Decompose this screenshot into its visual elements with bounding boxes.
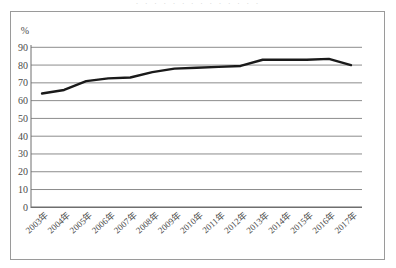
y-tick-label-0: 0 xyxy=(23,202,28,213)
x-tick-label-2006年: 2006年 xyxy=(89,209,116,235)
y-tick-label-20: 20 xyxy=(18,166,28,177)
y-tick-label-70: 70 xyxy=(18,77,28,88)
x-tick-label-2015年: 2015年 xyxy=(288,209,315,235)
x-tick-label-2009年: 2009年 xyxy=(155,209,182,235)
line-chart: 9080706050403020100 % 2003年2004年2005年200… xyxy=(0,0,396,268)
y-tick-label-80: 80 xyxy=(18,60,28,71)
y-axis-unit-label: % xyxy=(21,25,29,36)
y-tick-label-60: 60 xyxy=(18,95,28,106)
y-tick-label-30: 30 xyxy=(18,148,28,159)
x-tick-label-2008年: 2008年 xyxy=(133,209,160,235)
x-tick-label-2011年: 2011年 xyxy=(200,209,227,235)
x-tick-label-2013年: 2013年 xyxy=(244,209,271,235)
data-series-line xyxy=(42,59,351,94)
x-tick-label-2004年: 2004年 xyxy=(45,209,72,235)
y-tick-label-90: 90 xyxy=(18,42,28,53)
y-tick-label-10: 10 xyxy=(18,184,28,195)
y-tick-label-50: 50 xyxy=(18,113,28,124)
y-axis-tick-labels: 9080706050403020100 xyxy=(18,42,28,213)
x-tick-label-2007年: 2007年 xyxy=(111,209,138,235)
x-axis-tick-labels: 2003年2004年2005年2006年2007年2008年2009年2010年… xyxy=(23,209,359,235)
x-tick-label-2014年: 2014年 xyxy=(266,209,293,235)
x-tick-label-2005年: 2005年 xyxy=(67,209,94,235)
x-tick-label-2016年: 2016年 xyxy=(310,209,337,235)
x-tick-label-2012年: 2012年 xyxy=(222,209,249,235)
x-tick-label-2010年: 2010年 xyxy=(177,209,204,235)
x-tick-label-2003年: 2003年 xyxy=(23,209,50,235)
y-tick-label-40: 40 xyxy=(18,131,28,142)
x-tick-label-2017年: 2017年 xyxy=(332,209,359,235)
